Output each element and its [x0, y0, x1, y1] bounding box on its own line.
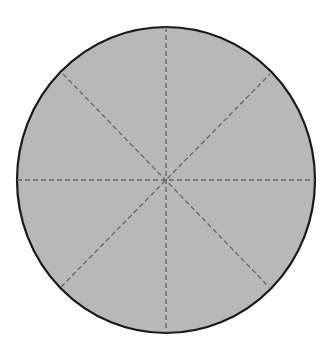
divided-circle-diagram	[0, 0, 332, 343]
